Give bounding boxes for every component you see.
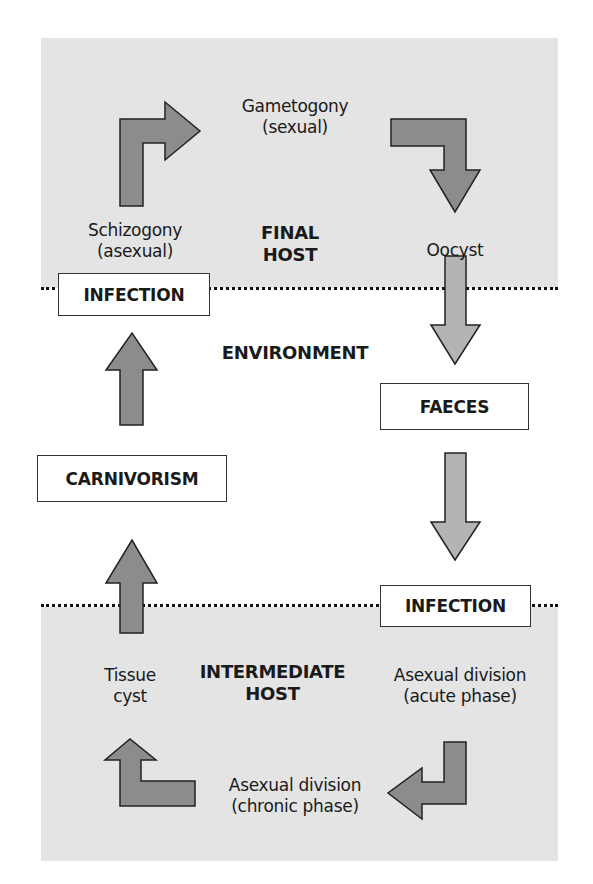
arrow-chronic-to-tissue-cyst-icon — [105, 739, 195, 806]
stage-schizogony: Schizogony (asexual) — [60, 220, 210, 262]
arrow-tissue-cyst-to-carnivorism-icon — [106, 540, 157, 633]
stage-asexual-chronic: Asexual division (chronic phase) — [210, 775, 380, 817]
box-infection-intermediate-host: INFECTION — [380, 585, 531, 627]
zone-title-final-host-line1: FINAL — [235, 222, 345, 244]
zone-title-final-host: FINAL HOST — [235, 222, 345, 266]
stage-oocyst-line1: Oocyst — [405, 240, 505, 261]
zone-title-environment-text: ENVIRONMENT — [190, 342, 400, 364]
stage-asexual-acute-line1: Asexual division — [375, 665, 545, 686]
box-infection-final-host: INFECTION — [58, 273, 210, 316]
stage-schizogony-line2: (asexual) — [60, 241, 210, 262]
arrow-schizogony-to-gametogony-icon — [120, 102, 200, 206]
stage-gametogony-line1: Gametogony — [215, 96, 375, 117]
zone-title-intermediate-host-line1: INTERMEDIATE — [185, 661, 360, 683]
stage-oocyst: Oocyst — [405, 240, 505, 261]
stage-asexual-acute: Asexual division (acute phase) — [375, 665, 545, 707]
box-carnivorism: CARNIVORISM — [37, 455, 227, 502]
stage-gametogony: Gametogony (sexual) — [215, 96, 375, 138]
stage-asexual-chronic-line2: (chronic phase) — [210, 796, 380, 817]
zone-title-final-host-line2: HOST — [235, 244, 345, 266]
zone-title-intermediate-host: INTERMEDIATE HOST — [185, 661, 360, 705]
stage-schizogony-line1: Schizogony — [60, 220, 210, 241]
stage-gametogony-line2: (sexual) — [215, 117, 375, 138]
arrow-gametogony-to-oocyst-icon — [391, 119, 480, 212]
stage-asexual-chronic-line1: Asexual division — [210, 775, 380, 796]
stage-asexual-acute-line2: (acute phase) — [375, 686, 545, 707]
stage-tissue-cyst: Tissue cyst — [85, 665, 175, 707]
stage-tissue-cyst-line2: cyst — [85, 686, 175, 707]
arrow-acute-to-chronic-icon — [388, 742, 466, 819]
zone-title-intermediate-host-line2: HOST — [185, 683, 360, 705]
arrow-faeces-to-infection-icon — [431, 453, 480, 560]
zone-title-environment: ENVIRONMENT — [190, 342, 400, 364]
stage-tissue-cyst-line1: Tissue — [85, 665, 175, 686]
arrow-oocyst-to-faeces-icon — [431, 256, 480, 364]
box-faeces: FAECES — [380, 383, 529, 430]
arrow-carnivorism-to-infection-icon — [106, 333, 157, 425]
